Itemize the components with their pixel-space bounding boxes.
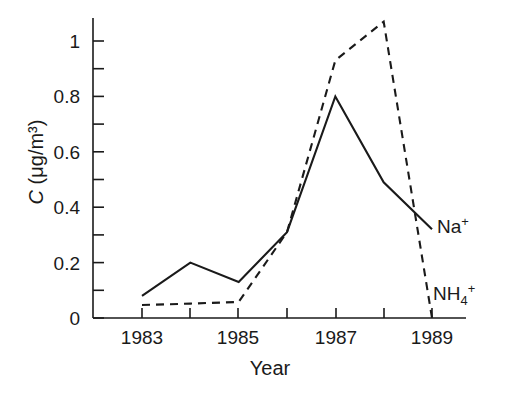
x-tick-label-1983: 1983: [102, 328, 182, 347]
series-label-na-text: Na: [437, 216, 461, 237]
series-label-na: Na+: [437, 216, 469, 236]
y-axis-label-units: (μg/m³): [25, 120, 47, 185]
chart-figure: 1 0.8 0.6 0.4 0.2 0 1983 1985 1987 1989 …: [0, 0, 510, 399]
series-label-na-charge: +: [461, 214, 469, 229]
series-label-nh4-count: 4: [460, 293, 467, 308]
y-tick-label-1: 1: [32, 32, 80, 51]
x-axis-ticks: [142, 308, 432, 318]
series-label-nh4: NH4+: [433, 283, 475, 308]
series-label-nh4-text: NH: [433, 283, 460, 304]
series-line-nh4: [142, 22, 432, 318]
y-tick-label-0.2: 0.2: [20, 254, 80, 273]
y-axis-label-symbol: C: [25, 190, 47, 204]
x-tick-label-1985: 1985: [198, 328, 278, 347]
y-axis-ticks: [93, 41, 104, 318]
x-axis-label: Year: [170, 358, 370, 378]
y-tick-label-0: 0: [32, 309, 80, 328]
series-label-nh4-charge: +: [468, 281, 476, 296]
x-tick-label-1987: 1987: [296, 328, 376, 347]
x-tick-label-1989: 1989: [392, 328, 472, 347]
series-line-na: [142, 96, 432, 295]
y-axis-label: C (μg/m³): [26, 92, 46, 232]
